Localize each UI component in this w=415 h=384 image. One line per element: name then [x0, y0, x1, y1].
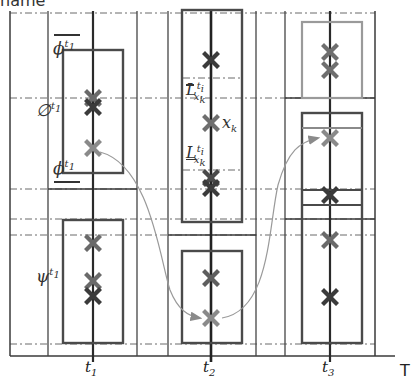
- tick-label-t3: t3: [322, 358, 334, 378]
- label-L-lower: Ltixk: [186, 143, 206, 168]
- label-phi-lower: ϕt1: [53, 158, 75, 178]
- tick-label-t2: t2: [203, 358, 215, 378]
- label-psi: ψt1: [36, 266, 60, 286]
- overbar-phi-upper: [54, 34, 80, 36]
- tick-label-t1: t1: [85, 358, 97, 378]
- label-x-k: xk: [222, 113, 237, 134]
- reference-lines: [10, 13, 375, 344]
- axis-label-T: T: [400, 361, 410, 380]
- column-grid: [48, 11, 285, 356]
- label-L-upper: Ltixk: [186, 80, 206, 105]
- label-empty-set: ∅t1: [36, 100, 61, 120]
- trajectory-diagram: name: [0, 0, 415, 384]
- label-phi-upper: ϕt1: [53, 38, 75, 58]
- underbar-phi-lower: [54, 181, 80, 183]
